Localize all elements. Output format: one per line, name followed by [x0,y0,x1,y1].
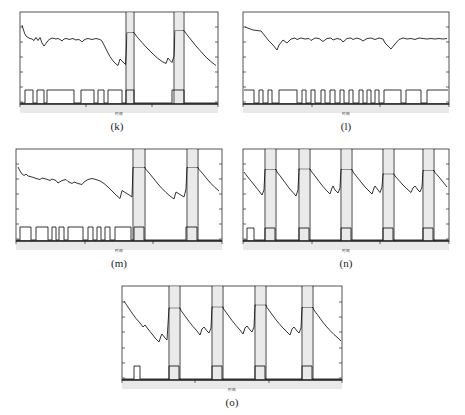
panel-m-plot: 时间 [8,145,230,255]
panel-m: 时间 (m) [8,145,230,273]
panel-n-spike-veil-5 [424,149,433,241]
panel-n-xlabel: 时间 [342,248,350,253]
figure-panel-grid: 时间 (k) [0,0,465,415]
panel-k-svg: 时间 [8,8,226,118]
panel-k-caption: (k) [8,120,226,132]
panel-o-xlabel: 时间 [228,387,236,392]
panel-k-plot: 时间 [8,8,226,118]
panel-n-spike-veil-2 [300,149,309,241]
panel-o-plot: 时间 [112,282,352,394]
panel-l-caption: (l) [235,120,457,132]
panel-n-svg: 时间 [235,145,457,255]
panel-m-svg: 时间 [8,145,230,255]
panel-n: 时间 (n) [235,145,457,273]
panel-l-svg: 时间 [235,8,457,118]
panel-n-spike-veil-4 [384,149,393,241]
panel-l-plot: 时间 [235,8,457,118]
panel-l: 时间 (l) [235,8,457,136]
panel-k: 时间 (k) [8,8,226,136]
panel-n-spike-veil-3 [342,149,351,241]
panel-k-xlabel: 时间 [115,111,123,116]
panel-n-plot: 时间 [235,145,457,255]
panel-o: 时间 (o) [112,282,352,412]
panel-n-caption: (n) [235,257,457,269]
panel-o-caption: (o) [112,396,352,408]
panel-n-spike-veil-1 [266,149,275,241]
panel-m-xlabel: 时间 [115,248,123,253]
panel-o-svg: 时间 [112,282,352,394]
panel-l-xlabel: 时间 [342,111,350,116]
panel-m-caption: (m) [8,257,230,269]
